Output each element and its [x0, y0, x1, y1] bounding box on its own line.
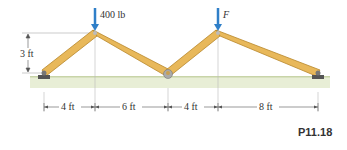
joint-b	[93, 31, 97, 35]
height-label: 3 ft	[20, 48, 34, 59]
dim-4-label: 8 ft	[259, 101, 273, 112]
joint-d	[216, 31, 220, 35]
dim-3-label: 4 ft	[184, 101, 198, 112]
roller-support-middle	[164, 70, 173, 79]
load-f-label: F	[222, 9, 230, 20]
load-400-label: 400 lb	[100, 9, 125, 20]
member-ab	[42, 30, 97, 76]
truss-members	[42, 30, 320, 76]
figure-label: P11.18	[298, 126, 332, 138]
dim-1-label: 4 ft	[61, 101, 75, 112]
arrow-down-icon	[91, 8, 99, 31]
truss-diagram: 400 lb F 3 ft 4 ft 6 ft 4 ft 8 ft P11.18	[0, 0, 347, 150]
member-de	[216, 30, 320, 76]
member-cd	[166, 30, 220, 76]
ground	[30, 76, 330, 88]
dim-2-label: 6 ft	[122, 101, 136, 112]
arrow-down-icon	[214, 8, 222, 31]
member-bc	[93, 30, 170, 76]
